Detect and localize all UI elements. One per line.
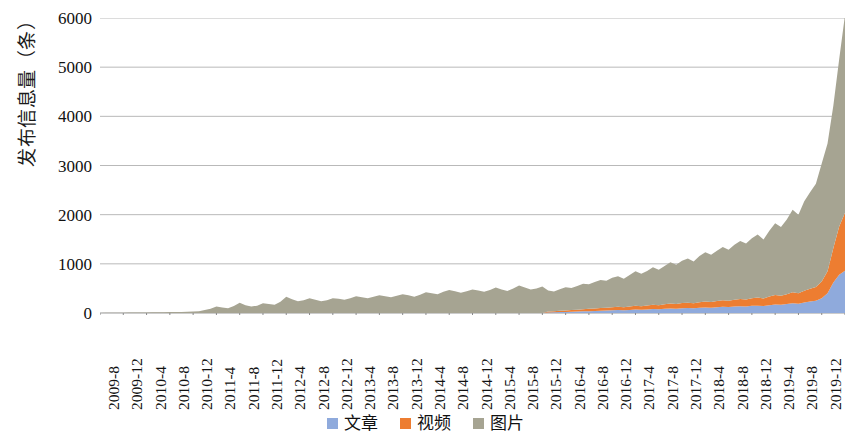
- legend-item[interactable]: 文章: [327, 415, 378, 432]
- y-axis-title: 发布信息量（条）: [12, 0, 39, 194]
- x-tick-label: 2010-4: [153, 366, 169, 410]
- plot-area: [100, 18, 845, 313]
- x-tick-label: 2015-8: [525, 366, 541, 410]
- x-tick-label: 2017-4: [641, 366, 657, 410]
- x-tick-label: 2013-8: [385, 366, 401, 410]
- x-tick-label: 2014-12: [479, 358, 495, 410]
- legend-label: 图片: [490, 415, 524, 432]
- square-swatch: [473, 418, 484, 429]
- y-tick-label: 6000: [36, 10, 92, 27]
- legend-label: 视频: [417, 415, 451, 432]
- x-tick-label: 2011-8: [246, 367, 262, 410]
- x-tick-label: 2011-4: [222, 367, 238, 410]
- x-tick-label: 2019-8: [804, 366, 820, 410]
- x-tick-label: 2018-8: [735, 366, 751, 410]
- x-tick-label: 2009-8: [106, 366, 122, 410]
- x-tick-label: 2018-12: [758, 358, 774, 410]
- chart-legend: 文章视频图片: [0, 415, 850, 432]
- x-tick-label: 2010-8: [176, 366, 192, 410]
- x-tick-label: 2016-8: [595, 366, 611, 410]
- x-tick-label: 2018-4: [711, 366, 727, 410]
- x-tick-label: 2017-12: [688, 358, 704, 410]
- x-tick-label: 2012-12: [339, 358, 355, 410]
- x-tick-label: 2012-4: [292, 366, 308, 410]
- x-tick-label: 2012-8: [316, 366, 332, 410]
- square-swatch: [327, 418, 338, 429]
- y-tick-label: 1000: [36, 256, 92, 273]
- y-tick-label: 4000: [36, 108, 92, 125]
- x-tick-label: 2013-12: [409, 358, 425, 410]
- legend-item[interactable]: 视频: [400, 415, 451, 432]
- x-axis-tick-labels: 2009-82009-122010-42010-82010-122011-420…: [100, 318, 845, 413]
- x-tick-label: 2015-12: [548, 358, 564, 410]
- x-tick-label: 2011-12: [269, 359, 285, 410]
- x-tick-label: 2009-12: [129, 358, 145, 410]
- x-tick-label: 2019-4: [781, 366, 797, 410]
- legend-label: 文章: [344, 415, 378, 432]
- x-tick-label: 2016-4: [572, 366, 588, 410]
- x-tick-label: 2013-4: [362, 366, 378, 410]
- x-tick-label: 2014-4: [432, 366, 448, 410]
- x-tick-label: 2014-8: [455, 366, 471, 410]
- x-tick-label: 2016-12: [618, 358, 634, 410]
- y-tick-label: 2000: [36, 207, 92, 224]
- legend-item[interactable]: 图片: [473, 415, 524, 432]
- stacked-area-chart: 发布信息量（条） 0100020003000400050006000 2009-…: [0, 0, 850, 439]
- y-tick-label: 3000: [36, 158, 92, 175]
- x-tick-label: 2017-8: [665, 366, 681, 410]
- x-tick-label: 2019-12: [828, 358, 844, 410]
- y-axis-tick-labels: 0100020003000400050006000: [36, 0, 92, 439]
- x-tick-label: 2010-12: [199, 358, 215, 410]
- plot-svg: [100, 18, 845, 315]
- y-tick-label: 0: [36, 305, 92, 322]
- y-tick-label: 5000: [36, 59, 92, 76]
- square-swatch: [400, 418, 411, 429]
- x-tick-label: 2015-4: [502, 366, 518, 410]
